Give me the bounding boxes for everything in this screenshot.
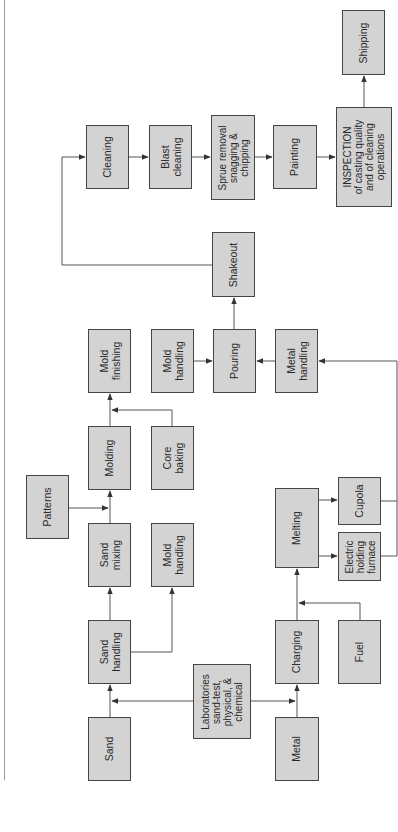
node-label: Laboratories sand-test, physical, & chem… [200,674,244,730]
node-label: Mold finishing [98,342,121,381]
node-label: Mold handling [161,535,184,575]
node-label: INSPECTION of casting quality and of cle… [342,120,386,195]
node-label: Metal handling [285,341,308,381]
node-label: Molding [104,440,116,477]
node-melting: Melting [275,488,319,568]
node-painting: Painting [273,125,317,189]
node-patterns: Patterns [26,475,69,539]
node-label: Metal [291,736,303,762]
node-shakeout: Shakeout [212,232,255,297]
node-label: Cupola [354,484,366,517]
node-sprue-removal: Sprue removal snagging & chipping [211,115,255,200]
node-cupola: Cupola [338,477,381,525]
node-inspection: INSPECTION of casting quality and of cle… [336,107,392,207]
node-label: Sand [104,737,116,762]
node-label: Painting [289,138,301,176]
node-label: Cleaning [102,136,114,177]
node-mold-finishing: Mold finishing [88,329,131,393]
node-label: Core baking [161,443,184,474]
node-charging: Charging [275,620,319,684]
node-blast-cleaning: Blast cleaning [149,125,192,189]
node-label: Patterns [42,487,54,526]
node-metal: Metal [275,717,319,781]
node-mold-handling-2: Mold handling [151,329,194,393]
node-label: Shakeout [228,242,240,286]
foundry-process-flowchart: Sand Sand handling Sand mixing Molding M… [0,0,398,832]
node-sand: Sand [88,717,131,781]
node-label: Melting [291,511,303,545]
node-label: Shipping [358,22,370,63]
node-mold-handling-1: Mold handling [151,523,194,587]
edge-sand-handling-to-mold-handling [131,588,172,652]
edge-fuel-to-melting [299,603,360,620]
node-label: Sand handling [98,632,121,672]
node-electric-holding-furnace: Electric holding furnace [338,532,381,581]
node-metal-handling: Metal handling [275,329,318,393]
node-molding: Molding [88,426,131,490]
node-shipping: Shipping [342,10,385,75]
node-label: Sand mixing [98,540,121,570]
node-label: Sprue removal snagging & chipping [217,125,250,190]
edge-furnace-to-metal-handling [319,361,397,556]
node-pouring: Pouring [213,329,256,393]
node-label: Charging [291,631,303,674]
node-label: Pouring [229,343,241,379]
node-sand-handling: Sand handling [88,620,131,684]
node-label: Blast cleaning [159,137,182,176]
node-sand-mixing: Sand mixing [88,523,131,587]
node-core-baking: Core baking [151,426,194,490]
node-cleaning: Cleaning [86,125,129,189]
edge-core-baking-to-mold-finishing [112,410,172,426]
node-label: Mold handling [161,341,184,381]
node-label: Electric holding furnace [343,540,376,573]
node-fuel: Fuel [338,620,381,684]
node-laboratories: Laboratories sand-test, physical, & chem… [193,664,251,739]
node-label: Fuel [354,642,366,662]
